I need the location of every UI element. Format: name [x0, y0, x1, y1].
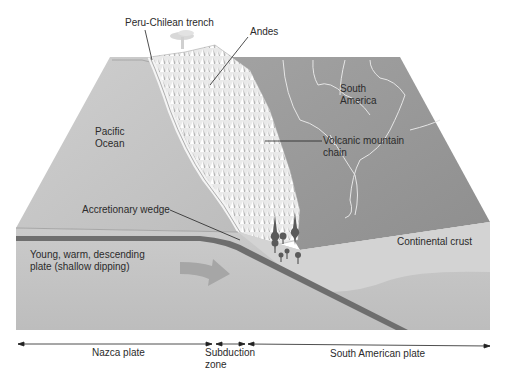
subduction-block-diagram [0, 0, 505, 390]
label-south-america-line1: South [340, 83, 377, 95]
label-south-american-plate: South American plate [330, 348, 425, 360]
label-subduction-line1: Subduction [205, 347, 255, 359]
label-descending-line1: Young, warm, descending [30, 249, 145, 261]
label-peru-chilean-trench: Peru-Chilean trench [125, 17, 214, 29]
label-pacific-ocean: Pacific Ocean [95, 126, 124, 150]
label-nazca-plate: Nazca plate [92, 347, 145, 359]
label-accretionary-wedge: Accretionary wedge [82, 204, 170, 216]
label-descending-line2: plate (shallow dipping) [30, 261, 145, 273]
label-south-america: South America [340, 83, 377, 107]
label-continental-crust: Continental crust [397, 236, 472, 248]
label-south-america-line2: America [340, 95, 377, 107]
label-andes: Andes [250, 26, 278, 38]
label-subduction-zone: Subduction zone [205, 347, 255, 371]
label-descending-plate: Young, warm, descending plate (shallow d… [30, 249, 145, 273]
label-pacific-ocean-line1: Pacific [95, 126, 124, 138]
label-volcanic-mountain-chain: Volcanic mountain chain [323, 135, 404, 159]
label-volcanic-line1: Volcanic mountain [323, 135, 404, 147]
label-volcanic-line2: chain [323, 147, 404, 159]
volcanic-plume-icon [170, 30, 194, 49]
label-subduction-line2: zone [205, 359, 255, 371]
label-pacific-ocean-line2: Ocean [95, 138, 124, 150]
